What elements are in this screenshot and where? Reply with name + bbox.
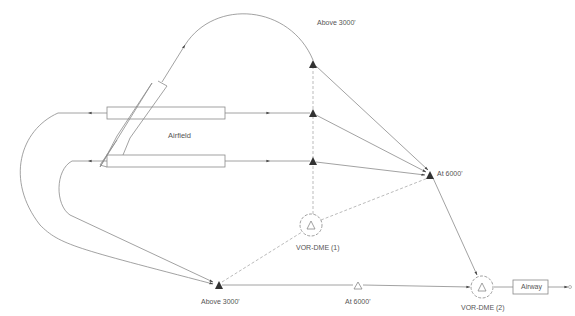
fix-triangle-top (309, 60, 317, 68)
top-fix-label: Above 3000' (317, 19, 356, 26)
fix-triangle-at6000 (426, 171, 434, 179)
fix-triangle-bottom (215, 281, 223, 289)
airway-label: Airway (521, 283, 542, 290)
fix-triangle-lower-mid (309, 157, 317, 165)
fix-triangle-open (354, 282, 362, 289)
airfield-runways (100, 81, 225, 167)
at6000-fix-label: At 6000' (437, 170, 462, 177)
approach-diagram (0, 0, 575, 316)
fix-triangle-upper-mid (309, 109, 317, 117)
vor-dme-1-symbol (300, 214, 322, 236)
vor-dme-2-symbol (471, 276, 493, 298)
vor-dme-1-label: VOR-DME (1) (296, 244, 340, 251)
bottom-fix-label: Above 3000' (201, 298, 240, 305)
vor-dme-2-label: VOR-DME (2) (461, 304, 505, 311)
mid-fix-label: At 6000' (345, 298, 370, 305)
airfield-label: Airfield (168, 131, 191, 140)
departure-arc (162, 45, 185, 82)
